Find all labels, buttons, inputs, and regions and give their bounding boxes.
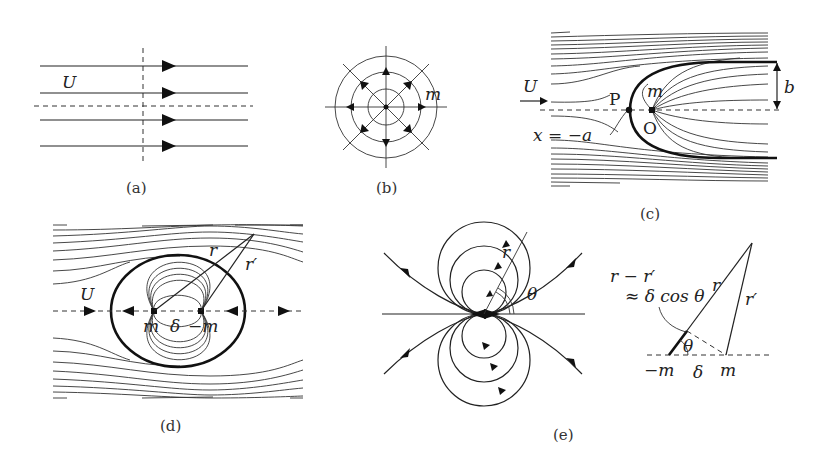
label-r-minus-r-prime: r − r′ [610,266,655,286]
label-U: U [80,284,95,304]
label-b: b [784,77,795,97]
source-point [649,107,655,113]
label-O: O [643,118,657,138]
label-P: P [609,89,620,109]
label-minus-m: −m [188,316,218,336]
label-minus-m: −m [644,360,674,380]
label-x-eq-minus-a: x = −a [533,125,592,145]
caption-a: (a) [126,179,147,197]
caption-d: (d) [160,417,181,435]
panel-e-inset-geometry: r − r′ ≈ δ cos θ r r′ θ −m δ m [610,243,772,382]
label-m: m [647,81,663,101]
label-U: U [62,72,77,92]
label-r-prime: r′ [245,254,257,274]
label-r-prime: r′ [745,289,757,309]
label-theta: θ [683,336,693,356]
label-U: U [523,76,538,96]
label-m: m [143,316,159,336]
label-r: r [712,275,721,295]
caption-b: (b) [376,179,397,197]
label-r: r [502,242,511,262]
caption-c: (c) [640,205,660,223]
label-delta: δ [170,316,180,336]
panel-b-source: m [325,46,447,168]
label-delta: δ [693,362,703,382]
stagnation-point [626,107,632,113]
caption-e: (e) [553,426,574,444]
label-approx-delta-cos-theta: ≈ δ cos θ [625,286,704,306]
label-r: r [209,240,218,260]
label-m: m [720,360,736,380]
label-m: m [425,84,441,104]
figure-canvas: U (a) m (b) [0,0,818,465]
panel-d-rankine-oval: U r r′ m δ −m (d) [53,225,303,435]
panel-a-uniform-flow: U (a) [34,48,253,197]
label-theta: θ [527,284,537,304]
panel-e-doublet: r θ (e) [382,222,585,444]
panel-c-half-body: U P m O x = −a b (c) [520,32,795,223]
